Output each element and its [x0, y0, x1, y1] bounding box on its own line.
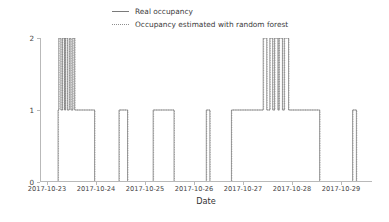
legend-line-solid-icon	[112, 11, 129, 12]
series-real-occupancy	[41, 38, 372, 182]
x-axis-label: Date	[40, 196, 372, 206]
y-tick-mark-0	[37, 182, 40, 183]
chart-legend: Real occupancy Occupancy estimated with …	[112, 6, 292, 32]
y-tick-label-1: 1	[0, 106, 34, 115]
x-tick-label-6: 2017-10-29	[311, 185, 371, 193]
legend-label-real-occupancy: Real occupancy	[135, 7, 193, 16]
series-path-real	[41, 38, 372, 182]
legend-entry-estimated-occupancy: Occupancy estimated with random forest	[112, 19, 292, 30]
plot-svg	[41, 38, 372, 182]
legend-entry-real-occupancy: Real occupancy	[112, 6, 292, 17]
y-tick-label-2: 2	[0, 34, 34, 43]
occupancy-chart-figure: Real occupancy Occupancy estimated with …	[0, 0, 389, 222]
legend-label-estimated-occupancy: Occupancy estimated with random forest	[135, 20, 288, 29]
legend-line-dotted-icon	[112, 24, 129, 25]
plot-area	[40, 38, 372, 182]
